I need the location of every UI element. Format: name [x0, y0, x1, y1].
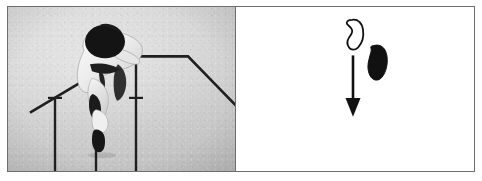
motion-schematic — [236, 7, 474, 171]
figure-root — [0, 0, 482, 181]
left-panel-photograph — [8, 7, 235, 171]
right-panel-schematic — [236, 7, 474, 171]
gymnast-trailing-limb — [114, 64, 127, 101]
gymnast-figure — [8, 7, 235, 171]
filled-blob — [368, 45, 387, 80]
gymnast-ground-shadow — [88, 152, 116, 158]
figure-frame — [7, 6, 475, 172]
downward-arrow — [346, 55, 361, 116]
outlined-blob — [347, 20, 364, 50]
arrow-head — [346, 98, 361, 117]
